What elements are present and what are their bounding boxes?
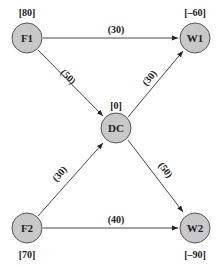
- network-diagram: (30) (50) (30) (30) (50) (40) [80] F1 [–…: [0, 0, 223, 267]
- edge-cost-label: (50): [58, 67, 78, 87]
- edge-cost-label: (50): [156, 160, 176, 181]
- node-value-label: [70]: [19, 249, 36, 260]
- node-w1: [–60] W1: [180, 7, 210, 53]
- node-value-label: [–90]: [184, 249, 206, 260]
- node-value-label: [80]: [19, 7, 36, 18]
- edge-dc-w2: (50): [128, 140, 183, 212]
- node-value-label: [–60]: [184, 7, 206, 18]
- edge-cost-label: (30): [140, 68, 160, 88]
- node-label: F1: [21, 32, 33, 44]
- node-value-label: [0]: [110, 100, 122, 111]
- node-label: DC: [108, 122, 124, 134]
- node-label: W1: [187, 32, 204, 44]
- edge-cost-label: (40): [108, 214, 125, 226]
- edge-f1-w1: (30): [43, 24, 178, 38]
- node-dc: [0] DC: [101, 100, 131, 143]
- edge-f2-w2: (40): [43, 214, 178, 228]
- node-label: F2: [21, 222, 34, 234]
- node-label: W2: [187, 222, 204, 234]
- node-w2: W2 [–90]: [180, 213, 210, 260]
- node-f1: [80] F1: [12, 7, 42, 53]
- edge-cost-label: (30): [108, 24, 125, 36]
- edge-f1-dc: (50): [38, 50, 103, 116]
- node-f2: F2 [70]: [12, 213, 42, 260]
- edge-cost-label: (30): [50, 164, 70, 184]
- edge-f2-dc: (30): [38, 143, 103, 216]
- edge-dc-w1: (30): [128, 51, 183, 117]
